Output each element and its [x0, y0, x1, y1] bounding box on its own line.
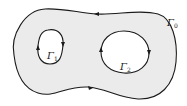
label-gamma-1: Γ1: [46, 50, 58, 62]
label-gamma-2: Γ2: [119, 61, 131, 73]
label-gamma-0: Γ0: [166, 17, 178, 29]
region-diagram: Γ0 Γ1 Γ2: [0, 0, 187, 106]
